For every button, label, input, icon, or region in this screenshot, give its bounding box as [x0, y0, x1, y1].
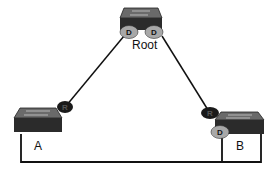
- switch-a[interactable]: [14, 108, 62, 132]
- link-a-b: [21, 134, 222, 162]
- port-b-root: R: [201, 107, 219, 119]
- links: [21, 36, 261, 162]
- label-b: B: [236, 139, 244, 153]
- svg-text:D: D: [217, 128, 223, 137]
- link-root-a: [66, 36, 124, 106]
- link-root-b: [162, 36, 208, 110]
- port-root-right: D: [145, 26, 163, 39]
- label-root: Root: [132, 38, 157, 52]
- port-b-designated: D: [211, 126, 229, 139]
- port-root-left: D: [120, 26, 138, 39]
- port-a-root: R: [57, 101, 73, 113]
- svg-text:R: R: [62, 103, 68, 112]
- label-a: A: [34, 139, 42, 153]
- svg-text:R: R: [207, 109, 213, 118]
- svg-text:D: D: [126, 28, 132, 37]
- svg-text:D: D: [151, 28, 157, 37]
